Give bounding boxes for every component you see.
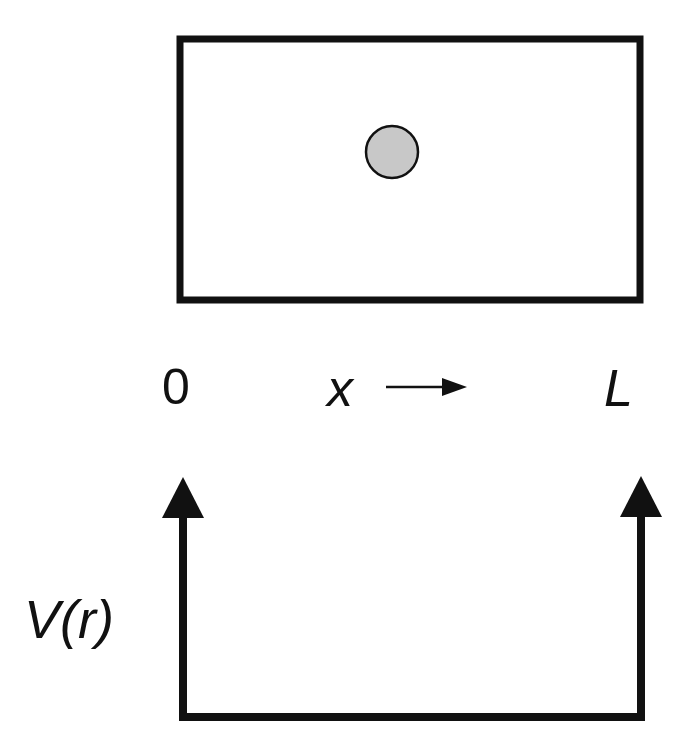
- particle: [366, 126, 418, 178]
- axis-variable-label: x: [327, 362, 353, 414]
- right-wall-arrowhead-icon: [620, 476, 662, 517]
- axis-start-label: 0: [162, 362, 190, 412]
- axis-end-label: L: [604, 362, 633, 414]
- left-wall-arrowhead-icon: [162, 477, 204, 518]
- potential-label: V(r): [24, 592, 114, 646]
- x-direction-arrowhead-icon: [442, 378, 467, 396]
- potential-well: [183, 515, 641, 717]
